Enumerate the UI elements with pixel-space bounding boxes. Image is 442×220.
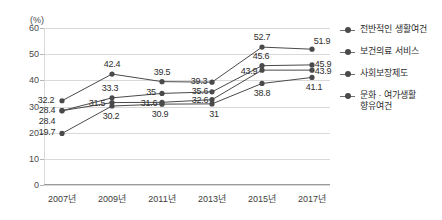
data-label: 31 <box>209 109 219 119</box>
data-point-marker <box>159 91 164 96</box>
chart-container: (%) 0102030405060 2007년2009년2011년2013년20… <box>0 0 442 220</box>
plot-area: 0102030405060 2007년2009년2011년2013년2015년2… <box>44 28 330 185</box>
data-point-marker <box>309 47 314 52</box>
clipped-title <box>8 0 308 4</box>
data-label: 38.8 <box>254 88 271 98</box>
x-tick-label: 2011년 <box>148 192 175 205</box>
legend-label: 보건의료 서비스 <box>360 46 419 57</box>
data-label: 28.4 <box>39 105 56 115</box>
data-label: 39.3 <box>191 76 208 86</box>
data-point-marker <box>209 80 214 85</box>
x-tick-label: 2015년 <box>248 192 276 205</box>
data-label: 42.4 <box>104 59 121 69</box>
x-tick-label: 2017년 <box>298 192 326 205</box>
y-tick-mark <box>40 185 44 186</box>
data-point-marker <box>259 45 264 50</box>
data-label: 33.3 <box>102 83 119 93</box>
data-label: 19.7 <box>39 127 56 137</box>
data-point-marker <box>259 63 264 68</box>
data-point-marker <box>259 81 264 86</box>
data-label: 35 <box>146 87 156 97</box>
data-point-marker <box>59 108 64 113</box>
legend-label: 사회보장제도 <box>360 68 408 79</box>
y-tick-label: 40 <box>29 75 39 85</box>
data-point-marker <box>59 98 64 103</box>
data-label: 51.9 <box>314 36 331 46</box>
y-tick-label: 50 <box>29 49 39 59</box>
data-point-marker <box>109 103 114 108</box>
x-tick-label: 2009년 <box>98 192 126 205</box>
legend-marker-icon <box>340 69 355 80</box>
x-tick-label: 2007년 <box>48 192 76 205</box>
legend-marker-icon <box>340 25 355 36</box>
data-label: 30.9 <box>152 109 169 119</box>
data-label: 41.1 <box>306 82 323 92</box>
data-point-marker <box>209 89 214 94</box>
y-tick-label: 20 <box>29 128 39 138</box>
data-label: 39.5 <box>154 67 171 77</box>
data-point-marker <box>259 68 264 73</box>
data-label: 32.2 <box>38 95 55 105</box>
legend-label: 문화 · 여가생활 향유여건 <box>360 90 440 112</box>
data-point-marker <box>109 95 114 100</box>
legend-marker-icon <box>340 91 355 102</box>
data-label: 31.6 <box>141 98 158 108</box>
chart-legend: 전반적인 생활여건보건의료 서비스사회보장제도문화 · 여가생활 향유여건 <box>340 24 440 122</box>
y-tick-label: 60 <box>29 23 39 33</box>
data-label: 43.9 <box>315 66 332 76</box>
data-point-marker <box>209 101 214 106</box>
data-label: 30.2 <box>103 111 120 121</box>
legend-label: 전반적인 생활여건 <box>360 24 427 35</box>
y-tick-label: 0 <box>34 180 39 190</box>
legend-item[interactable]: 사회보장제도 <box>340 68 440 80</box>
legend-item[interactable]: 문화 · 여가생활 향유여건 <box>340 90 440 112</box>
data-label: 32.6 <box>192 95 209 105</box>
gridline <box>44 185 330 186</box>
data-label: 45.6 <box>253 51 270 61</box>
data-label: 43.9 <box>241 66 258 76</box>
legend-marker-icon <box>340 47 355 58</box>
series-lines <box>44 28 330 185</box>
legend-item[interactable]: 전반적인 생활여건 <box>340 24 440 36</box>
data-label: 31.5 <box>89 98 106 108</box>
data-point-marker <box>159 79 164 84</box>
data-point-marker <box>159 102 164 107</box>
x-tick-label: 2013년 <box>198 192 226 205</box>
data-label: 52.7 <box>254 32 271 42</box>
y-tick-label: 10 <box>29 154 39 164</box>
data-label: 28.4 <box>39 116 56 126</box>
data-point-marker <box>59 131 64 136</box>
legend-item[interactable]: 보건의료 서비스 <box>340 46 440 58</box>
data-point-marker <box>109 71 114 76</box>
